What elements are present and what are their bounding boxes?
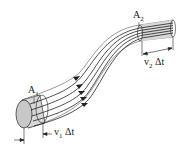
label-v2-dt: v2 Δt: [144, 57, 164, 70]
a2-sub: 2: [140, 15, 144, 23]
label-a2: A2: [133, 10, 144, 23]
tube-lower-edge: [28, 37, 173, 128]
v2-suffix: Δt: [153, 56, 165, 67]
v1-suffix: Δt: [63, 126, 75, 137]
label-v1-dt: v1 Δt: [54, 127, 74, 140]
label-a1: A1: [28, 85, 39, 98]
flow-tube-diagram: [0, 0, 185, 155]
inlet-end-face: [16, 100, 32, 128]
a1-sub: 1: [35, 90, 39, 98]
